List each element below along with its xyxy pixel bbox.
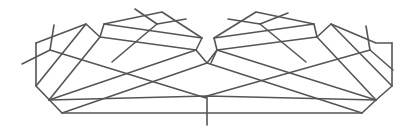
left-top-edge-a [36, 24, 100, 43]
left-ray-3 [100, 37, 196, 50]
right-ray-2 [214, 24, 314, 38]
right-top-edge-b [211, 12, 317, 63]
wireframe-diagram [0, 0, 413, 135]
right-ray-3 [217, 37, 317, 50]
left-ray-2 [104, 24, 202, 38]
right-fan-1 [331, 24, 392, 86]
left-inner-2 [157, 19, 186, 24]
right-top-edge-a [317, 24, 392, 43]
center-v-bottom [49, 96, 376, 100]
right-cross-2 [366, 26, 370, 50]
diagram-canvas [0, 0, 413, 135]
